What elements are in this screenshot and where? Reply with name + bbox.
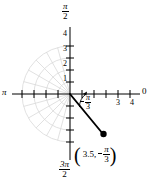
angle-label-neg-pi-over-3: π 3 [80, 94, 91, 111]
axis-label-pi: π [2, 88, 7, 97]
tick-label-y-4: 4 [57, 29, 67, 38]
pi-over-2-numerator: π [62, 2, 69, 11]
angle-minus-sign [80, 101, 84, 102]
3pi-over-2-denominator: 2 [59, 169, 70, 179]
angle-denominator: 3 [85, 102, 91, 111]
point-radius-value: 3.5 [83, 150, 94, 159]
point-minus-sign [98, 153, 102, 154]
grid-spoke-105 [58, 48, 70, 94]
tick-label-y-3: 3 [57, 44, 67, 53]
3pi-over-2-numerator: 3π [59, 160, 70, 169]
tick-label-y-1: 1 [57, 74, 67, 83]
axes [12, 27, 140, 160]
point-comma: , [94, 150, 96, 159]
axis-label-pi-over-2: π 2 [62, 2, 69, 21]
axis-label-zero: 0 [142, 87, 147, 96]
tick-label-x-4: 4 [127, 98, 137, 107]
data-point-marker [100, 131, 106, 137]
angle-numerator: π [85, 94, 91, 102]
polar-plot-figure: π 2 3π 2 π 0 4 3 2 1 3 4 π 3 ( 3.5 , π 3… [0, 0, 152, 189]
point-open-paren: ( [74, 147, 81, 163]
axis-label-3pi-over-2: 3π 2 [59, 160, 70, 179]
point-close-paren: ) [110, 147, 117, 163]
grid-spoke-255 [58, 94, 70, 140]
tick-label-x-3: 3 [113, 98, 123, 107]
grid-spoke-195 [24, 94, 70, 106]
tick-label-y-2: 2 [57, 59, 67, 68]
pi-over-2-denominator: 2 [62, 11, 69, 21]
grid-spoke-165 [24, 82, 70, 94]
point-coordinate-label: ( 3.5 , π 3 ) [74, 145, 116, 164]
